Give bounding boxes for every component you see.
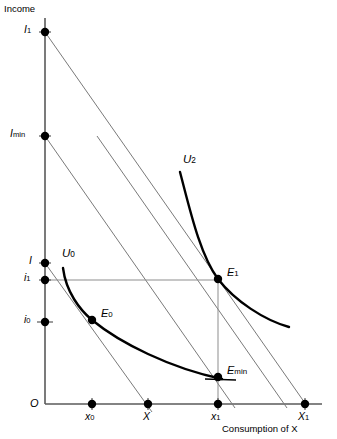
point-label-E1: E1 <box>227 267 239 278</box>
y-tick-label-I-main: I <box>29 254 32 266</box>
x-tick-label-X: X <box>143 411 150 422</box>
point-x1 <box>214 400 222 408</box>
y-tick-label-I1-sub: 1 <box>27 26 31 35</box>
x-tick-label-X1: X1 <box>298 411 309 422</box>
indifference-curve-U0 <box>63 268 222 379</box>
budget-line-inner <box>45 136 235 408</box>
x-tick-label-X1-sub: 1 <box>305 413 309 422</box>
point-Imin <box>41 132 49 140</box>
origin-label: O <box>30 398 39 409</box>
x-tick-label-X1-main: X <box>298 410 305 422</box>
y-tick-label-I1: I1 <box>24 24 31 35</box>
budget-line-lower <box>45 263 152 412</box>
point-i1 <box>41 276 49 284</box>
y-tick-label-Imin: Imin <box>10 128 25 139</box>
point-label-E0: E0 <box>101 308 113 319</box>
point-E0 <box>88 316 96 324</box>
indifference-curve-U2 <box>180 172 289 327</box>
point-X <box>144 400 152 408</box>
curve-label-U0-sub: 0 <box>70 250 75 259</box>
curve-label-U2-sub: 2 <box>191 156 196 165</box>
x-tick-label-X-main: X <box>143 410 150 422</box>
point-Emin <box>214 373 222 381</box>
point-E1 <box>214 275 222 283</box>
point-I <box>41 259 49 267</box>
point-label-Emin-sub: min <box>234 367 247 376</box>
point-label-E1-sub: 1 <box>234 269 238 278</box>
figure-canvas: Income Consumption of X O I1 Imin I i1 i… <box>0 0 337 439</box>
x-tick-label-x0: x0 <box>85 411 94 422</box>
y-tick-label-i1-sub: 1 <box>26 274 30 283</box>
point-label-Emin: Emin <box>227 365 247 376</box>
y-tick-label-i1: i1 <box>24 272 31 283</box>
budget-line-outer <box>45 32 307 406</box>
budget-line-parallel-shift <box>97 136 287 408</box>
y-tick-label-i0-sub: 0 <box>26 316 30 325</box>
point-X1 <box>301 400 309 408</box>
diagram-svg <box>0 0 337 439</box>
x-tick-label-x1: x1 <box>211 411 220 422</box>
x-tick-label-x0-sub: 0 <box>90 413 94 422</box>
y-tick-label-i0: i0 <box>24 314 31 325</box>
x-tick-label-x1-sub: 1 <box>216 413 220 422</box>
y-axis-title: Income <box>4 4 35 14</box>
point-x0 <box>88 400 96 408</box>
y-tick-label-Imin-sub: min <box>13 130 25 139</box>
x-axis-title: Consumption of X <box>222 424 298 434</box>
curve-label-U2: U2 <box>183 154 196 166</box>
point-I1 <box>41 28 49 36</box>
point-i0 <box>41 318 49 326</box>
y-tick-label-I: I <box>29 255 32 266</box>
curve-label-U0: U0 <box>62 248 75 260</box>
point-label-E0-sub: 0 <box>108 310 112 319</box>
